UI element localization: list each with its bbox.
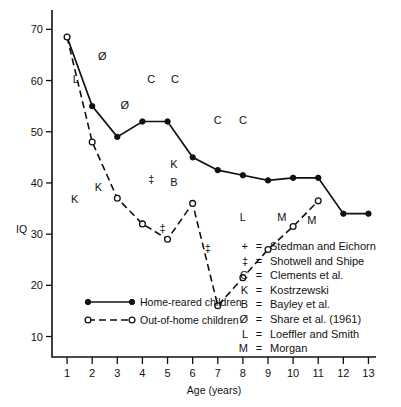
legend-label-home-reared: Home-reared children: [140, 296, 242, 308]
annotation-K: K: [71, 193, 79, 205]
annotation-C: C: [239, 114, 247, 126]
y-tick-label: 30: [31, 228, 43, 240]
data-point: [140, 221, 146, 227]
legend-marker-open: [85, 317, 91, 323]
y-tick-label: 40: [31, 177, 43, 189]
chart-canvas: 10203040506070IQ12345678910111213Age (ye…: [0, 0, 401, 407]
data-point: [165, 236, 171, 242]
key-symbol-M: M: [239, 342, 248, 354]
key-name-6: Loeffler and Smith: [270, 328, 359, 340]
x-tick-label: 8: [240, 367, 246, 379]
key-equals: =: [256, 284, 262, 296]
x-tick-label: 10: [287, 367, 299, 379]
data-point: [115, 134, 120, 139]
data-point: [315, 198, 321, 204]
annotation-Ø: Ø: [98, 50, 107, 62]
annotation-‡: ‡: [205, 242, 211, 254]
data-point: [140, 119, 145, 124]
x-tick-label: 1: [64, 367, 70, 379]
y-tick-label: 10: [31, 331, 43, 343]
legend-label-out-of-home: Out-of-home children: [140, 314, 239, 326]
data-point: [190, 201, 196, 207]
annotation-L: L: [73, 73, 79, 85]
data-point: [190, 155, 195, 160]
annotation-K: K: [170, 158, 178, 170]
key-equals: =: [256, 298, 262, 310]
key-name-1: Shotwell and Shipe: [270, 255, 364, 267]
annotation-M: M: [277, 211, 286, 223]
iq-by-age-chart: 10203040506070IQ12345678910111213Age (ye…: [0, 0, 401, 407]
key-equals: =: [256, 313, 262, 325]
x-tick-label: 2: [89, 367, 95, 379]
key-equals: =: [256, 269, 262, 281]
annotation-L: L: [240, 211, 246, 223]
x-tick-label: 6: [190, 367, 196, 379]
x-tick-label: 13: [362, 367, 374, 379]
data-point: [114, 195, 120, 201]
x-tick-label: 11: [313, 367, 324, 379]
annotation-‡: ‡: [159, 222, 165, 234]
x-tick-label: 5: [164, 367, 170, 379]
x-tick-label: 4: [139, 367, 145, 379]
legend-marker-filled: [85, 299, 90, 304]
data-point: [341, 211, 346, 216]
x-axis-title: Age (years): [187, 384, 241, 396]
key-name-5: Share et al. (1961): [270, 313, 361, 325]
annotation-Ø: Ø: [121, 99, 130, 111]
legend-marker-filled: [129, 299, 134, 304]
key-name-0: Stedman and Eichorn: [270, 240, 376, 252]
x-tick-label: 3: [114, 367, 120, 379]
data-point: [366, 211, 371, 216]
key-equals: =: [256, 342, 262, 354]
annotation-B: B: [170, 176, 177, 188]
key-symbol-B: B: [241, 298, 248, 310]
key-equals: =: [256, 255, 262, 267]
key-name-7: Morgan: [270, 342, 307, 354]
data-point: [64, 34, 70, 40]
y-tick-label: 20: [31, 279, 43, 291]
annotation-C: C: [171, 73, 179, 85]
key-equals: =: [256, 328, 262, 340]
key-symbol-+: +: [242, 240, 248, 252]
data-point: [165, 119, 170, 124]
data-point: [240, 173, 245, 178]
y-axis-title: IQ: [16, 223, 27, 235]
data-point: [215, 167, 220, 172]
y-tick-label: 70: [31, 23, 43, 35]
key-name-3: Kostrzewski: [270, 284, 329, 296]
key-symbol-L: L: [242, 328, 248, 340]
legend-marker-open: [129, 317, 135, 323]
key-symbol-K: K: [241, 284, 249, 296]
data-point: [89, 103, 94, 108]
annotation-M: M: [307, 214, 316, 226]
x-tick-label: 7: [215, 367, 221, 379]
annotation-C: C: [214, 114, 222, 126]
key-symbol-‡: ‡: [242, 255, 248, 267]
data-point: [316, 175, 321, 180]
data-point: [290, 175, 295, 180]
data-point: [290, 224, 296, 230]
key-symbol-Ø: Ø: [239, 313, 248, 325]
key-symbol-C: C: [240, 269, 248, 281]
key-equals: =: [256, 240, 262, 252]
key-name-2: Clements et al.: [270, 269, 343, 281]
data-point: [265, 178, 270, 183]
x-tick-label: 12: [337, 367, 349, 379]
data-point: [89, 139, 95, 145]
y-tick-label: 60: [31, 75, 43, 87]
annotation-‡: ‡: [148, 173, 154, 185]
x-tick-label: 9: [265, 367, 271, 379]
key-name-4: Bayley et al.: [270, 298, 330, 310]
annotation-K: K: [95, 181, 103, 193]
annotation-C: C: [147, 73, 155, 85]
y-tick-label: 50: [31, 126, 43, 138]
